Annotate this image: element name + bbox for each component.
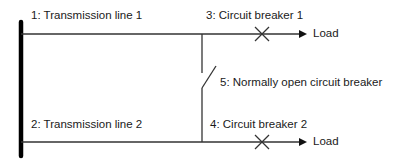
label-load-top: Load (313, 28, 339, 40)
normally-open-switch-symbol (202, 66, 216, 88)
label-transmission-line-2: 2: Transmission line 2 (31, 119, 142, 131)
label-transmission-line-1: 1: Transmission line 1 (31, 10, 142, 22)
label-load-bottom: Load (313, 136, 339, 148)
load-arrow-top-icon (299, 30, 307, 38)
label-circuit-breaker-1: 3: Circuit breaker 1 (206, 10, 303, 22)
label-normally-open-breaker: 5: Normally open circuit breaker (220, 77, 382, 89)
load-arrow-bottom-icon (299, 138, 307, 146)
label-circuit-breaker-2: 4: Circuit breaker 2 (210, 119, 307, 131)
